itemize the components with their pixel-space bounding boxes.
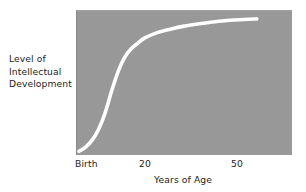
x-tick-label-birth: Birth <box>75 158 98 169</box>
intellectual-development-curve <box>79 19 257 151</box>
growth-curve-plot <box>77 11 292 155</box>
y-axis-label-line-1: Level of <box>9 53 73 66</box>
plot-area <box>76 10 292 155</box>
chart-figure: Level of Intellectual Development Birth … <box>0 0 306 192</box>
x-tick-label-20: 20 <box>139 158 151 169</box>
y-axis-label-line-3: Development <box>9 78 73 91</box>
y-axis-label-line-2: Intellectual <box>9 66 73 79</box>
y-axis-label: Level of Intellectual Development <box>9 53 73 91</box>
x-tick-label-50: 50 <box>231 158 243 169</box>
x-axis-title: Years of Age <box>0 174 306 185</box>
